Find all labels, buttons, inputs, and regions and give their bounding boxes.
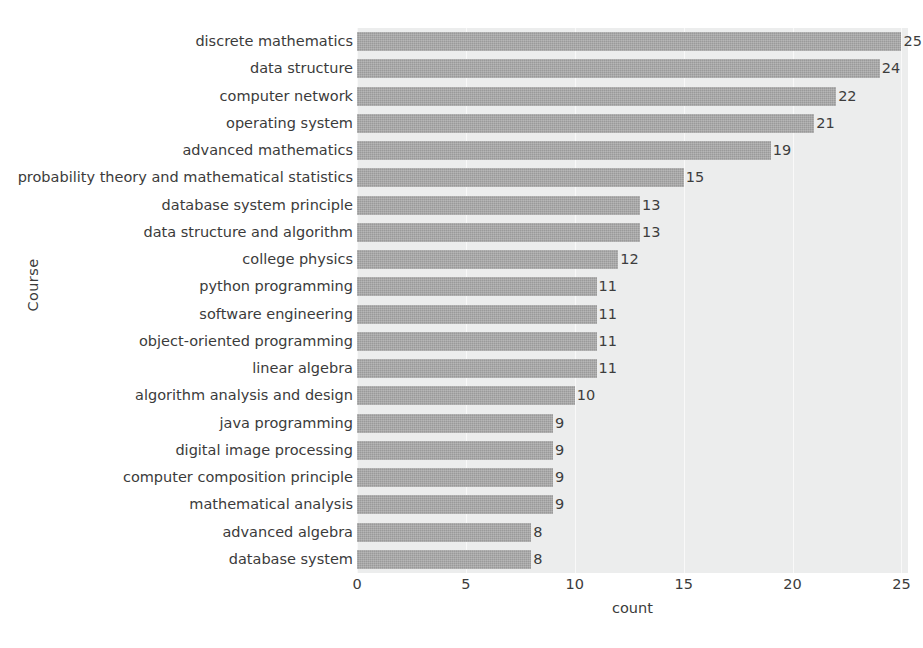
bar[interactable]: [357, 305, 597, 324]
bar-value-label: 9: [555, 495, 564, 514]
x-axis-ticks: 0510152025: [357, 576, 908, 600]
bar-row: 21: [357, 110, 908, 137]
bar-value-label: 9: [555, 468, 564, 487]
bar[interactable]: [357, 495, 553, 514]
category-label: advanced mathematics: [10, 137, 353, 164]
category-label: discrete mathematics: [10, 28, 353, 55]
bar-row: 22: [357, 83, 908, 110]
x-axis-title: count: [357, 600, 908, 616]
bar-row: 12: [357, 246, 908, 273]
category-label: college physics: [10, 246, 353, 273]
bar-row: 24: [357, 55, 908, 82]
bar[interactable]: [357, 523, 531, 542]
bar-row: 8: [357, 546, 908, 573]
bar[interactable]: [357, 414, 553, 433]
bar-value-label: 8: [533, 523, 542, 542]
bar-value-label: 22: [838, 87, 856, 106]
bar-row: 19: [357, 137, 908, 164]
bar[interactable]: [357, 550, 531, 569]
bar-value-label: 19: [773, 141, 791, 160]
category-label: database system: [10, 546, 353, 573]
category-label: software engineering: [10, 301, 353, 328]
bar-chart-figure: Course discrete mathematicsdata structur…: [0, 0, 923, 648]
category-label: digital image processing: [10, 437, 353, 464]
category-label: linear algebra: [10, 355, 353, 382]
bar-row: 9: [357, 491, 908, 518]
category-label: data structure: [10, 55, 353, 82]
bar-row: 11: [357, 273, 908, 300]
category-label: probability theory and mathematical stat…: [10, 164, 353, 191]
category-label: mathematical analysis: [10, 491, 353, 518]
x-tick-label: 15: [674, 576, 692, 592]
bar-value-label: 21: [816, 114, 834, 133]
bar-row: 11: [357, 301, 908, 328]
bar-value-label: 11: [599, 277, 617, 296]
bar-value-label: 15: [686, 168, 704, 187]
category-label: python programming: [10, 273, 353, 300]
bar-value-label: 24: [882, 59, 900, 78]
bar-value-label: 8: [533, 550, 542, 569]
bar-row: 9: [357, 464, 908, 491]
bar[interactable]: [357, 223, 640, 242]
bar-row: 13: [357, 219, 908, 246]
bar-row: 11: [357, 328, 908, 355]
x-tick-label: 10: [566, 576, 584, 592]
bar[interactable]: [357, 32, 901, 51]
bar-value-label: 9: [555, 414, 564, 433]
x-tick-label: 25: [892, 576, 910, 592]
bar-value-label: 11: [599, 305, 617, 324]
bar-row: 11: [357, 355, 908, 382]
bar[interactable]: [357, 87, 836, 106]
bar[interactable]: [357, 59, 880, 78]
bar-value-label: 11: [599, 332, 617, 351]
bar-value-label: 11: [599, 359, 617, 378]
category-label: data structure and algorithm: [10, 219, 353, 246]
bar-value-label: 13: [642, 196, 660, 215]
bar-row: 15: [357, 164, 908, 191]
bar-row: 9: [357, 437, 908, 464]
category-label: advanced algebra: [10, 519, 353, 546]
x-tick-label: 5: [461, 576, 470, 592]
bar[interactable]: [357, 468, 553, 487]
bar-row: 9: [357, 410, 908, 437]
bar[interactable]: [357, 386, 575, 405]
bar[interactable]: [357, 359, 597, 378]
bar-row: 25: [357, 28, 908, 55]
bar-row: 10: [357, 382, 908, 409]
bar-value-label: 13: [642, 223, 660, 242]
category-label: computer composition principle: [10, 464, 353, 491]
x-tick-label: 0: [352, 576, 361, 592]
bar-value-label: 25: [903, 32, 921, 51]
bar[interactable]: [357, 277, 597, 296]
bar-row: 13: [357, 192, 908, 219]
bar-value-label: 10: [577, 386, 595, 405]
x-tick-label: 20: [783, 576, 801, 592]
category-label: java programming: [10, 410, 353, 437]
bar[interactable]: [357, 441, 553, 460]
bar[interactable]: [357, 332, 597, 351]
category-label: database system principle: [10, 192, 353, 219]
bar[interactable]: [357, 141, 771, 160]
bar-row: 8: [357, 519, 908, 546]
category-label: operating system: [10, 110, 353, 137]
bar[interactable]: [357, 168, 684, 187]
bar-value-label: 9: [555, 441, 564, 460]
category-label: object-oriented programming: [10, 328, 353, 355]
bar[interactable]: [357, 250, 618, 269]
plot-area: 2524222119151313121111111110999988: [357, 28, 908, 573]
bar-value-label: 12: [620, 250, 638, 269]
category-label: computer network: [10, 83, 353, 110]
bar[interactable]: [357, 196, 640, 215]
bar[interactable]: [357, 114, 814, 133]
category-label: algorithm analysis and design: [10, 382, 353, 409]
clipped-caption: [60, 637, 580, 648]
